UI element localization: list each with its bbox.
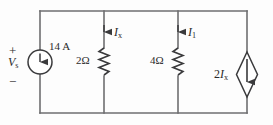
wire-network — [40, 11, 247, 113]
circuit-diagram: + Vs − 14 A 2Ω Ix 4Ω I1 2Ix — [0, 0, 273, 125]
resistor-2-ohm-symbol — [99, 48, 109, 75]
dependent-current-source-symbol — [237, 52, 258, 97]
current-label-ix: Ix — [114, 26, 122, 38]
voltage-polarity-minus: − — [9, 75, 16, 88]
dependent-source-subscript: x — [224, 73, 228, 82]
source-voltage-label: Vs — [8, 56, 19, 68]
resistor-4-ohm-symbol — [173, 48, 183, 75]
independent-current-source-symbol — [28, 50, 52, 74]
resistor-2-ohm-label: 2Ω — [76, 55, 90, 66]
current-i1-subscript: 1 — [192, 31, 196, 40]
circuit-schematic-svg — [0, 0, 273, 125]
source-current-value-label: 14 A — [49, 41, 70, 52]
dependent-source-value-label: 2Ix — [214, 68, 228, 80]
current-label-i1: I1 — [188, 26, 196, 38]
resistor-4-ohm-label: 4Ω — [150, 55, 164, 66]
source-voltage-subscript: s — [15, 61, 18, 70]
current-ix-subscript: x — [118, 31, 122, 40]
